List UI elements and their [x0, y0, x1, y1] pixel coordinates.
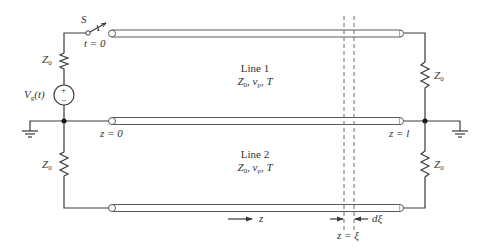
ground-right — [452, 131, 468, 137]
circuit-diagram — [0, 0, 490, 247]
source-minus: − — [61, 96, 66, 105]
resistor-top-right-label: Z0 — [434, 70, 444, 83]
transmission-line-2 — [109, 205, 404, 212]
z-xi-label: z = ξ — [337, 230, 359, 241]
resistor-top-left-label: Z0 — [42, 54, 52, 67]
switch-label: S — [81, 14, 87, 25]
line2-params: Z0, vp, T — [215, 162, 295, 175]
z-start-label: z = 0 — [100, 128, 123, 139]
resistor-bottom-left-label: Z0 — [42, 159, 52, 172]
z-end-label: z = l — [389, 128, 409, 139]
resistor-top-left — [60, 50, 68, 85]
ground-left — [22, 131, 38, 137]
z-direction-label: z — [259, 213, 263, 224]
resistor-top-right — [421, 62, 429, 121]
resistor-bottom-right-label: Z0 — [434, 159, 444, 172]
dxi-label: dξ — [372, 213, 382, 224]
transmission-line-1 — [109, 30, 404, 37]
line1-title: Line 1 — [225, 63, 285, 74]
source-plus: + — [61, 86, 66, 95]
transmission-line-middle — [109, 118, 404, 125]
switch-time-label: t = 0 — [84, 38, 105, 49]
source-label: Vg(t) — [24, 89, 45, 102]
line1-params: Z0, vp, T — [215, 76, 295, 89]
line2-title: Line 2 — [225, 149, 285, 160]
